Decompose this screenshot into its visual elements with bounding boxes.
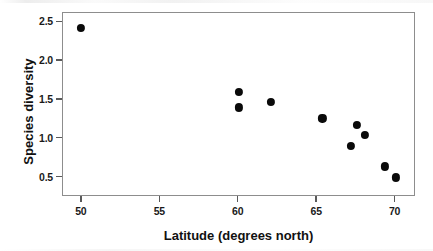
x-axis-title: Latitude (degrees north)	[62, 228, 415, 243]
data-point	[77, 23, 85, 31]
data-point	[381, 162, 389, 170]
y-tick-mark	[56, 176, 62, 177]
x-tick-label: 65	[311, 205, 322, 217]
x-tick-mark	[80, 196, 81, 202]
x-tick-label: 50	[75, 205, 86, 217]
y-tick-label: 0.5	[39, 171, 53, 183]
data-point	[361, 131, 369, 139]
data-point	[267, 98, 275, 106]
top-scan-artifact	[0, 0, 433, 3]
x-tick-mark	[394, 196, 395, 202]
x-tick-mark	[315, 196, 316, 202]
x-tick-mark	[237, 196, 238, 202]
data-point	[392, 173, 400, 181]
y-tick-mark	[56, 137, 62, 138]
x-tick-label: 60	[232, 205, 243, 217]
x-tick-label: 70	[389, 205, 400, 217]
data-point	[235, 88, 243, 96]
data-point	[235, 103, 243, 111]
data-point	[318, 114, 326, 122]
plot-area	[62, 12, 415, 196]
x-tick-label: 55	[154, 205, 165, 217]
scatter-plot-figure: 0.51.01.52.02.5 5055606570 Species diver…	[0, 0, 433, 251]
y-tick-mark	[56, 98, 62, 99]
y-tick-label: 1.0	[39, 132, 53, 144]
y-tick-label: 1.5	[39, 93, 53, 105]
x-tick-mark	[159, 196, 160, 202]
y-tick-label: 2.0	[39, 54, 53, 66]
y-tick-mark	[56, 59, 62, 60]
y-axis-title: Species diversity	[21, 32, 36, 192]
y-tick-label: 2.5	[39, 15, 53, 27]
data-point	[347, 141, 355, 149]
y-tick-mark	[56, 21, 62, 22]
data-point	[353, 120, 361, 128]
